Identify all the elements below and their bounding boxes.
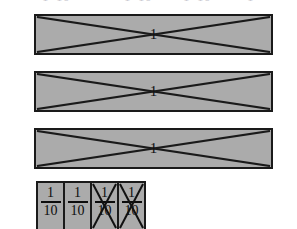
whole-bar: 1: [34, 14, 273, 55]
cross-out-icon: [119, 183, 144, 229]
tenth-cell-crossed: 1 10: [92, 183, 119, 229]
whole-bar-label: 1: [36, 130, 271, 167]
clipped-fragment: 1: [247, 0, 254, 5]
fraction-numerator: 1: [46, 186, 55, 200]
tenth-cell-crossed: 1 10: [119, 183, 144, 229]
fraction-denominator: 10: [70, 204, 86, 218]
fraction-denominator: 10: [43, 204, 59, 218]
tenth-cell: 1 10: [65, 183, 92, 229]
clipped-fragment: 1: [42, 0, 49, 5]
clipped-text-row: 1 10 1 10 1 10 1: [0, 0, 297, 7]
whole-bar-label: 1: [36, 73, 271, 110]
clipped-fragment: 1: [124, 0, 131, 5]
tenths-strip: 1 10 1 10 1 10 1: [36, 181, 146, 229]
figure-canvas: 1 10 1 10 1 10 1 1 1 1 1: [0, 0, 297, 229]
fraction-one-tenth: 1 10: [68, 186, 88, 219]
whole-bar: 1: [34, 128, 273, 169]
whole-bar-label: 1: [36, 16, 271, 53]
clipped-fragment: 10: [197, 0, 211, 5]
cross-out-icon: [92, 183, 117, 229]
clipped-fragment: 1: [183, 0, 190, 5]
fraction-numerator: 1: [73, 186, 82, 200]
whole-bar: 1: [34, 71, 273, 112]
clipped-fragment: 10: [56, 0, 70, 5]
clipped-fragment: 10: [138, 0, 152, 5]
tenth-cell: 1 10: [38, 183, 65, 229]
fraction-one-tenth: 1 10: [41, 186, 61, 219]
